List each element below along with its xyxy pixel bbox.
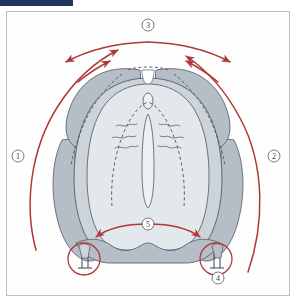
marker-2: 2 <box>268 150 280 162</box>
marker-1-label: 1 <box>16 152 20 161</box>
marker-5-label: 5 <box>146 220 150 229</box>
anatomy-group <box>53 67 243 268</box>
marker-3: 3 <box>142 19 154 31</box>
marker-1: 1 <box>12 150 24 162</box>
figure-page: 1 2 3 4 5 <box>0 0 296 303</box>
anatomical-diagram: 1 2 3 4 5 <box>0 0 296 303</box>
marker-4: 4 <box>212 272 224 284</box>
marker-4-label: 4 <box>216 274 220 283</box>
top-arc-left-head <box>66 42 148 62</box>
marker-5: 5 <box>142 218 154 230</box>
incisive-papilla <box>143 93 153 109</box>
top-arc-right-head <box>148 42 230 62</box>
marker-3-label: 3 <box>146 21 150 30</box>
median-raphe <box>142 114 154 208</box>
marker-2-label: 2 <box>272 152 276 161</box>
